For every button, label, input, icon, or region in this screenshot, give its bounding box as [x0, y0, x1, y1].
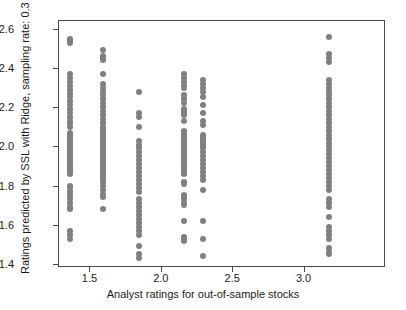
data-point: [326, 59, 332, 65]
data-point: [67, 40, 73, 46]
x-tick-label: 3.0: [296, 272, 311, 284]
x-tick-mark: [304, 267, 305, 272]
data-point: [100, 206, 106, 212]
data-point: [67, 124, 73, 130]
data-point: [326, 251, 332, 257]
data-point: [200, 94, 206, 100]
data-point: [67, 171, 73, 177]
x-axis-label: Analyst ratings for out-of-sample stocks: [0, 288, 406, 300]
data-point: [67, 206, 73, 212]
y-tick-label: 2.6: [0, 23, 14, 35]
x-tick-mark: [161, 267, 162, 272]
data-point: [200, 102, 206, 108]
data-point: [200, 110, 206, 116]
x-tick-label: 1.5: [82, 272, 97, 284]
scatter-plot-figure: 1.41.61.82.02.22.42.6 1.52.02.53.0 Analy…: [0, 0, 406, 310]
y-tick-label: 2.4: [0, 62, 14, 74]
data-point: [67, 236, 73, 242]
data-point: [181, 118, 187, 124]
data-point: [181, 218, 187, 224]
y-tick-label: 2.0: [0, 140, 14, 152]
data-point: [181, 181, 187, 187]
data-point: [200, 218, 206, 224]
y-tick-label: 1.6: [0, 219, 14, 231]
data-point: [136, 114, 142, 120]
data-point: [326, 187, 332, 193]
data-point: [181, 238, 187, 244]
data-point: [136, 189, 142, 195]
y-tick-mark: [53, 107, 58, 108]
data-point: [326, 204, 332, 210]
y-tick-label: 1.8: [0, 180, 14, 192]
data-point: [136, 232, 142, 238]
plot-area: [58, 20, 385, 267]
data-point: [181, 171, 187, 177]
y-tick-mark: [53, 29, 58, 30]
data-point: [200, 177, 206, 183]
x-tick-mark: [232, 267, 233, 272]
y-tick-label: 1.4: [0, 258, 14, 270]
data-point: [136, 243, 142, 249]
data-point: [136, 255, 142, 261]
data-point: [326, 214, 332, 220]
data-point: [100, 194, 106, 200]
data-point: [136, 124, 142, 130]
data-point: [200, 122, 206, 128]
data-point: [200, 187, 206, 193]
data-point: [200, 253, 206, 259]
y-axis-label: Ratings predicted by SSL with Ridge, sam…: [19, 4, 31, 274]
x-tick-mark: [89, 267, 90, 272]
data-point: [136, 89, 142, 95]
y-tick-mark: [53, 68, 58, 69]
y-tick-mark: [53, 225, 58, 226]
data-point: [181, 202, 187, 208]
y-tick-mark: [53, 264, 58, 265]
y-tick-label: 2.2: [0, 101, 14, 113]
data-point: [100, 71, 106, 77]
data-point: [326, 34, 332, 40]
y-tick-mark: [53, 146, 58, 147]
data-point: [200, 236, 206, 242]
data-point: [181, 85, 187, 91]
x-tick-label: 2.0: [153, 272, 168, 284]
data-point: [326, 236, 332, 242]
x-tick-label: 2.5: [225, 272, 240, 284]
y-tick-mark: [53, 186, 58, 187]
data-point: [100, 57, 106, 63]
